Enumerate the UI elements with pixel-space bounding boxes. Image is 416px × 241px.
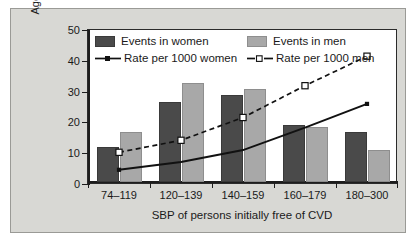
legend-dashed-line-icon	[247, 53, 273, 64]
chart-figure: 01020304050 74–119120–139140–159160–1791…	[0, 0, 416, 241]
y-axis-tick-label: 20	[68, 117, 80, 128]
legend-label-events-in-men: Events in men	[273, 36, 346, 48]
line-rate-per-1000-women	[119, 104, 367, 170]
legend-item-rate-per-1000-men: Rate per 1000 men	[247, 53, 374, 65]
marker-open-square-icon	[302, 83, 308, 89]
y-axis-tick-label: 0	[74, 179, 80, 190]
legend-swatch-dark-square-icon	[95, 36, 115, 47]
marker-filled-square-icon	[365, 102, 369, 106]
legend-label-rate-per-1000-men: Rate per 1000 men	[276, 53, 374, 65]
marker-open-square-icon	[116, 149, 122, 155]
x-axis-tick-label: 120–139	[160, 190, 203, 201]
x-axis-tick-label: 140–159	[222, 190, 265, 201]
marker-filled-square-icon	[117, 168, 121, 172]
x-axis-title: SBP of persons initially free of CVD	[87, 209, 397, 221]
legend-swatch-light-square-icon	[247, 36, 267, 47]
x-axis-tick-label: 160–179	[284, 190, 327, 201]
marker-open-square-icon	[240, 114, 246, 120]
legend-item-rate-per-1000-women: Rate per 1000 women	[95, 53, 247, 65]
legend-item-events-in-men: Events in men	[247, 36, 346, 48]
chart-legend: Events in women Events in men Rate per 1…	[95, 33, 387, 67]
y-axis-tick-label: 10	[68, 148, 80, 159]
y-axis-title: Age-adjusted annual rate, % of events	[29, 0, 85, 29]
y-axis-tick-label: 30	[68, 86, 80, 97]
legend-row-bars: Events in women Events in men	[95, 33, 387, 50]
y-axis-tick-label: 40	[68, 55, 80, 66]
figure-card: 01020304050 74–119120–139140–159160–1791…	[10, 8, 406, 233]
legend-item-events-in-women: Events in women	[95, 36, 247, 48]
y-axis-title-line-1: Age-adjusted annual rate,	[29, 0, 43, 29]
legend-label-rate-per-1000-women: Rate per 1000 women	[124, 53, 237, 65]
y-axis-title-line-2: % of events	[43, 0, 57, 29]
x-axis-tick-label: 180–300	[346, 190, 389, 201]
legend-row-lines: Rate per 1000 women Rate per 1000 men	[95, 50, 387, 67]
legend-solid-line-icon	[95, 53, 121, 64]
line-rate-per-1000-men	[119, 56, 367, 152]
legend-label-events-in-women: Events in women	[121, 36, 209, 48]
marker-open-square-icon	[178, 137, 184, 143]
x-axis-tick-label: 74–119	[101, 190, 137, 201]
